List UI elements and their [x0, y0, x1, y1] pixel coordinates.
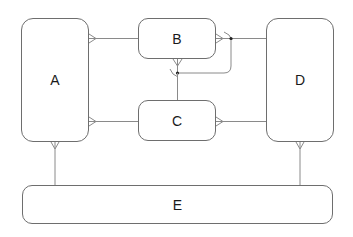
connector-a-c[interactable] [89, 117, 138, 126]
entity-e[interactable]: E [22, 185, 333, 224]
connector-b-d[interactable] [216, 34, 266, 43]
entity-b-label: B [172, 32, 181, 46]
entity-b[interactable]: B [138, 18, 216, 59]
diagram-canvas: A B C D E [0, 0, 353, 237]
entity-e-label: E [173, 198, 182, 212]
junction-dot-b-right [229, 37, 232, 40]
connector-a-b[interactable] [89, 34, 138, 43]
connector-a-e[interactable] [51, 142, 59, 185]
connector-d-e[interactable] [296, 142, 304, 185]
entity-c-label: C [172, 114, 182, 128]
connector-c-d[interactable] [216, 117, 266, 126]
entity-a[interactable]: A [21, 18, 89, 142]
entity-a-label: A [50, 73, 59, 87]
entity-c[interactable]: C [138, 100, 216, 141]
entity-d-label: D [295, 73, 305, 87]
entity-d[interactable]: D [266, 18, 334, 142]
